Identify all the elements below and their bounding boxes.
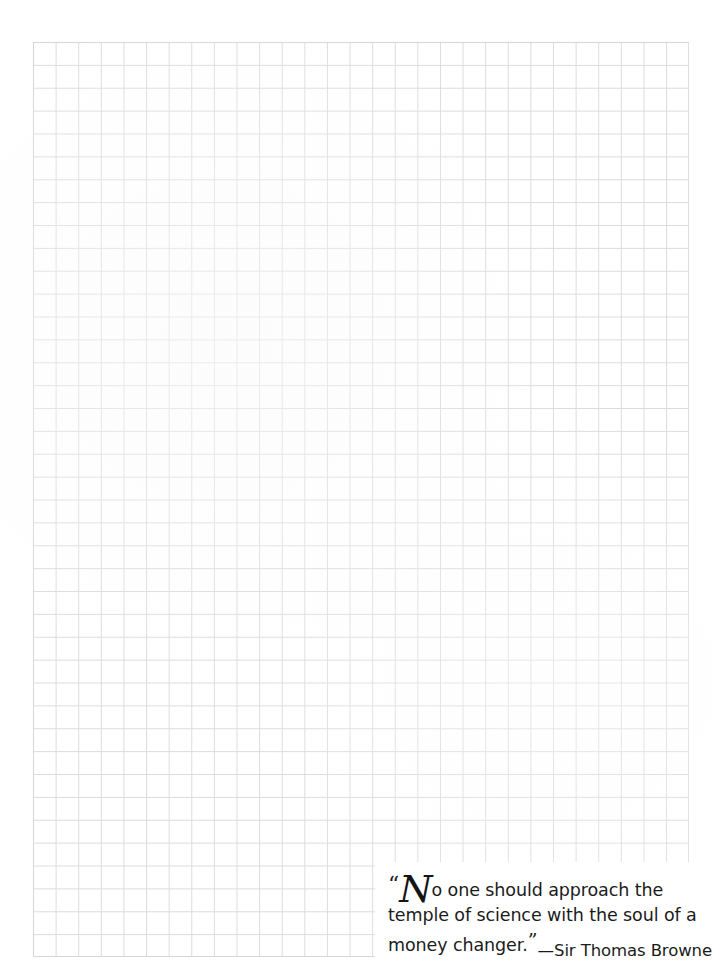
- close-quote-mark: ”: [528, 929, 538, 951]
- graph-paper-grid: [33, 42, 689, 957]
- quote-attribution: —Sir Thomas Browne: [538, 941, 712, 960]
- quote-line-3: changer.: [453, 935, 528, 955]
- notebook-page: “No one should approach the temple of sc…: [0, 0, 728, 972]
- open-quote-mark: “: [388, 872, 399, 897]
- quote-callout: “No one should approach the temple of sc…: [375, 862, 728, 972]
